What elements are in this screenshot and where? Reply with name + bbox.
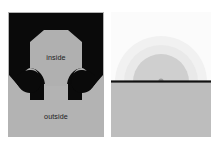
ground-halfspace: [111, 82, 211, 137]
figure-root: inside outside: [0, 0, 219, 144]
outside-label: outside: [44, 112, 68, 121]
inside-label: inside: [46, 53, 65, 62]
right-panel-svg: [111, 12, 211, 137]
radial-field-panel: [111, 12, 211, 137]
left-panel-svg: inside outside: [8, 12, 104, 137]
level-set-region-panel: inside outside: [8, 12, 104, 137]
interface-line: [111, 80, 211, 82]
